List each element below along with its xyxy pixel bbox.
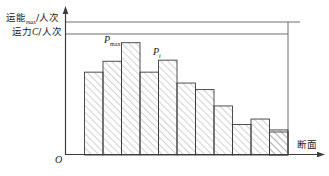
y-axis-label-capacity-max: 运能max/人次 (6, 13, 59, 25)
annotation-p-max-sub: max (110, 41, 120, 47)
y-axis-label-capacity-max-tail: /人次 (36, 12, 59, 23)
bar-8 (214, 106, 233, 155)
bar-3 (122, 43, 141, 155)
bar-series (85, 43, 289, 155)
y-axis-label-capacity-max-main: 运能 (6, 12, 26, 23)
bar-9 (233, 124, 252, 155)
bar-12 (270, 132, 289, 155)
bar-10 (251, 119, 270, 155)
bar-4 (140, 72, 159, 155)
bar-7 (196, 90, 215, 155)
bar-1 (85, 72, 104, 155)
bar-2 (103, 61, 122, 155)
annotation-p-i: Pi (153, 47, 161, 59)
y-axis-label-capacity-c-main: 运力 (12, 26, 32, 37)
origin-label: O (55, 155, 62, 165)
x-axis-label: 断面 (297, 140, 317, 150)
y-axis-arrow-icon (63, 6, 69, 14)
y-axis-label-capacity-c: 运力C/人次 (12, 27, 62, 38)
y-axis-label-capacity-c-tail: /人次 (38, 26, 61, 37)
annotation-p-i-sub: i (159, 53, 161, 59)
x-axis-arrow-icon (317, 152, 325, 158)
bar-5 (159, 60, 178, 155)
y-axis-label-capacity-max-sub: max (26, 19, 36, 25)
annotation-p-max: Pmax (104, 35, 120, 47)
bar-6 (177, 83, 196, 155)
